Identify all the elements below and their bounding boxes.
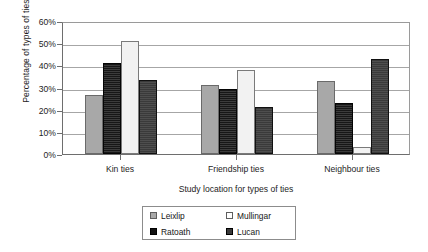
leixlip-swatch <box>150 212 157 219</box>
legend-entry-ratoath: Ratoath <box>150 224 226 240</box>
y-tick-label-50: 50% <box>10 40 56 49</box>
legend-label-leixlip: Leixlip <box>161 211 185 221</box>
bar-kin-ties-mullingar <box>121 41 139 154</box>
x-tick-mark-kin-ties <box>120 155 121 160</box>
bar-friendship-ties-leixlip <box>201 85 219 154</box>
plot-area <box>62 22 410 155</box>
bar-neighbour-ties-leixlip <box>317 81 335 154</box>
y-tick-label-0: 0% <box>10 151 56 160</box>
y-tick-label-40: 40% <box>10 62 56 71</box>
x-axis-title: Study location for types of ties <box>62 184 410 194</box>
x-tick-label-friendship-ties: Friendship ties <box>176 164 296 174</box>
legend-label-lucan: Lucan <box>237 227 260 237</box>
x-tick-label-kin-ties: Kin ties <box>60 164 180 174</box>
bar-neighbour-ties-ratoath <box>335 103 353 154</box>
bar-kin-ties-ratoath <box>103 63 121 154</box>
bar-kin-ties-lucan <box>139 80 157 154</box>
legend-label-mullingar: Mullingar <box>237 211 271 221</box>
bar-chart-figure: Percentage of types of ties 0%10%20%30%4… <box>0 0 428 252</box>
ratoath-swatch <box>150 228 157 235</box>
y-tick-mark-0 <box>57 155 62 156</box>
legend-entry-mullingar: Mullingar <box>226 208 304 224</box>
x-tick-mark-neighbour-ties <box>352 155 353 160</box>
chart-legend: LeixlipMullingarRatoathLucan <box>142 206 296 240</box>
bar-friendship-ties-lucan <box>255 107 273 154</box>
bar-friendship-ties-mullingar <box>237 70 255 154</box>
y-tick-label-20: 20% <box>10 107 56 116</box>
gridline-50 <box>63 45 409 46</box>
x-tick-mark-friendship-ties <box>236 155 237 160</box>
y-tick-label-10: 10% <box>10 129 56 138</box>
bar-friendship-ties-ratoath <box>219 89 237 154</box>
y-tick-label-30: 30% <box>10 85 56 94</box>
legend-entry-leixlip: Leixlip <box>150 208 226 224</box>
y-tick-label-60: 60% <box>10 18 56 27</box>
bar-neighbour-ties-lucan <box>371 59 389 154</box>
lucan-swatch <box>226 228 233 235</box>
x-tick-label-neighbour-ties: Neighbour ties <box>292 164 412 174</box>
bar-neighbour-ties-mullingar <box>353 147 371 154</box>
bar-kin-ties-leixlip <box>85 95 103 154</box>
legend-entry-lucan: Lucan <box>226 224 304 240</box>
legend-label-ratoath: Ratoath <box>161 227 190 237</box>
mullingar-swatch <box>226 212 233 219</box>
